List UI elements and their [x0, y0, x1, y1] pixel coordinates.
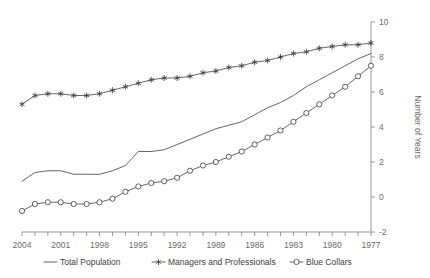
data-point-circle: [239, 149, 244, 154]
data-point-circle: [71, 201, 76, 206]
legend-item-managers-and-professionals[interactable]: Managers and Professionals: [152, 257, 276, 267]
y-tick-label: 8: [379, 52, 384, 62]
series-line: [22, 54, 371, 182]
data-point-circle: [136, 184, 141, 189]
line-chart: 1086420-2Number of Years2004200119981995…: [0, 0, 430, 278]
data-point-circle: [45, 200, 50, 205]
data-point-circle: [187, 168, 192, 173]
data-point-circle: [291, 119, 296, 124]
data-point-circle: [226, 154, 231, 159]
data-point-circle: [213, 159, 218, 164]
y-tick-label: 0: [379, 192, 384, 202]
legend-item-total-population[interactable]: Total Population: [44, 257, 121, 267]
x-tick-label: 2004: [13, 240, 32, 250]
data-point-circle: [265, 135, 270, 140]
series-blue-collars: [19, 63, 373, 213]
data-point-circle: [58, 200, 63, 205]
data-point-circle: [110, 196, 115, 201]
data-point-circle: [19, 208, 24, 213]
x-tick-label: 1995: [129, 240, 148, 250]
legend: Total PopulationManagers and Professiona…: [44, 257, 352, 267]
data-point-circle: [330, 93, 335, 98]
data-point-circle: [317, 102, 322, 107]
series-total-population: [22, 54, 371, 182]
data-point-circle: [343, 84, 348, 89]
data-point-circle: [278, 128, 283, 133]
legend-label: Total Population: [60, 257, 121, 267]
y-tick-label: 2: [379, 157, 384, 167]
data-point-circle: [355, 74, 360, 79]
series-managers-and-professionals: [19, 40, 373, 107]
data-point-circle: [200, 163, 205, 168]
y-axis: 1086420-2: [371, 17, 389, 237]
x-tick-label: 1998: [90, 240, 109, 250]
data-point-circle: [162, 179, 167, 184]
x-tick-label: 1980: [323, 240, 342, 250]
data-point-circle: [149, 180, 154, 185]
x-tick-label: 1986: [245, 240, 264, 250]
x-tick-label: 1983: [284, 240, 303, 250]
x-tick-label: 1989: [206, 240, 225, 250]
x-tick-label: 1992: [168, 240, 187, 250]
y-axis-title: Number of Years: [413, 95, 423, 158]
data-point-circle: [175, 175, 180, 180]
x-axis: 2004200119981995199219891986198319801977: [13, 232, 381, 250]
legend-item-blue-collars[interactable]: Blue Collars: [290, 257, 352, 267]
data-point-circle: [123, 189, 128, 194]
data-point-circle: [252, 142, 257, 147]
legend-label: Blue Collars: [306, 257, 352, 267]
y-tick-label: 6: [379, 87, 384, 97]
legend-label: Managers and Professionals: [168, 257, 276, 267]
x-tick-label: 2001: [51, 240, 70, 250]
y-tick-label: -2: [379, 227, 387, 237]
chart-container: 1086420-2Number of Years2004200119981995…: [0, 0, 430, 278]
data-point-circle: [294, 259, 299, 264]
data-point-circle: [84, 201, 89, 206]
data-point-circle: [97, 200, 102, 205]
y-tick-label: 4: [379, 122, 384, 132]
y-tick-label: 10: [379, 17, 389, 27]
data-point-circle: [368, 63, 373, 68]
data-point-circle: [32, 201, 37, 206]
series-line: [22, 66, 371, 211]
data-point-circle: [304, 110, 309, 115]
x-tick-label: 1977: [362, 240, 381, 250]
